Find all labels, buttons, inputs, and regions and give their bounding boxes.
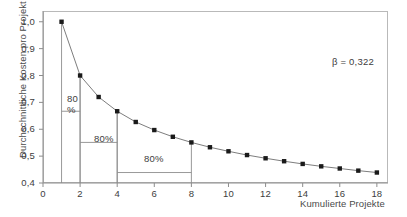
data-point-marker [59, 20, 63, 24]
data-point-marker [226, 149, 230, 153]
data-point-marker [356, 168, 360, 172]
y-tick-label: 0,5 [9, 150, 35, 161]
data-point-marker [189, 140, 193, 144]
data-point-marker [171, 135, 175, 139]
data-point-marker [300, 162, 304, 166]
data-point-marker [134, 120, 138, 124]
data-point-marker [245, 153, 249, 157]
data-point-marker [208, 145, 212, 149]
x-tick-label: 0 [33, 188, 53, 199]
annotation-80-percent-3: 80% [144, 154, 164, 165]
data-point-marker [282, 159, 286, 163]
annotation-80-percent-2: 80% [94, 134, 114, 145]
y-tick-label: 1,0 [9, 16, 35, 27]
data-point-marker [338, 166, 342, 170]
data-point-marker [115, 109, 119, 113]
data-point-marker [375, 170, 379, 174]
x-tick-label: 18 [367, 188, 387, 199]
data-series-group [59, 20, 379, 175]
data-point-marker [96, 95, 100, 99]
annotation-80-percent-1: 80 % [67, 94, 78, 115]
y-tick-label: 0,6 [9, 123, 35, 134]
data-point-marker [152, 128, 156, 132]
x-axis-title: Kumulierte Projekte [300, 198, 385, 209]
annotation-1-unit: % [67, 105, 78, 116]
chart-canvas [0, 0, 407, 217]
beta-annotation: β = 0,322 [332, 56, 374, 67]
data-point-marker [319, 164, 323, 168]
data-point-marker [263, 156, 267, 160]
annotation-lines-group [62, 22, 192, 183]
x-tick-label: 6 [144, 188, 164, 199]
y-tick-label: 0,7 [9, 96, 35, 107]
y-tick-label: 0,9 [9, 43, 35, 54]
axes-group [39, 11, 388, 187]
x-tick-label: 2 [70, 188, 90, 199]
chart-figure: Durchschnittliche Kosten pro Projekt Kum… [0, 0, 407, 217]
annotation-1-value: 80 [67, 94, 78, 105]
y-tick-label: 0,8 [9, 70, 35, 81]
y-tick-label: 0,4 [9, 177, 35, 188]
x-tick-label: 14 [293, 188, 313, 199]
x-tick-label: 10 [218, 188, 238, 199]
data-point-marker [78, 73, 82, 77]
x-tick-label: 8 [181, 188, 201, 199]
x-tick-label: 12 [256, 188, 276, 199]
x-tick-label: 4 [107, 188, 127, 199]
x-tick-label: 16 [330, 188, 350, 199]
